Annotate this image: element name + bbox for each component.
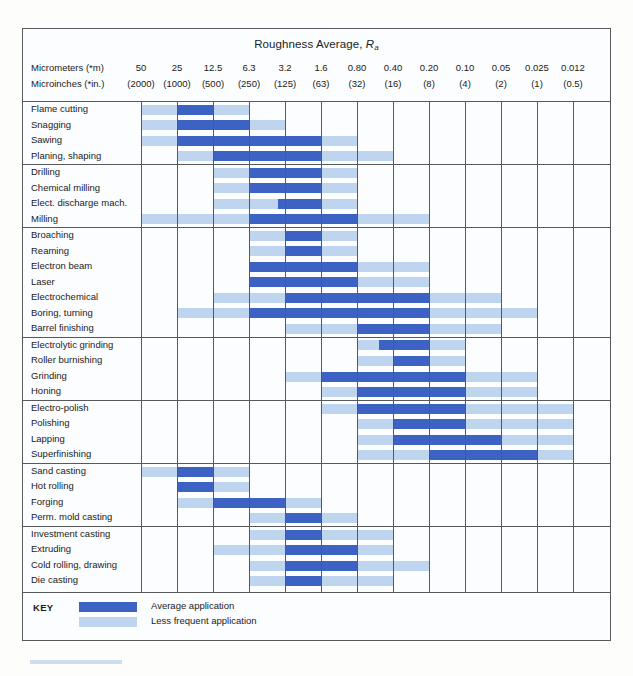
table-row[interactable]: Polishing — [23, 416, 610, 432]
bar-average — [249, 168, 321, 178]
process-group-1: Flame cuttingSnaggingSawingPlaning, shap… — [23, 102, 610, 164]
row-label: Forging — [31, 496, 63, 507]
bar-average — [357, 387, 465, 397]
table-row[interactable]: Chemical milling — [23, 181, 610, 197]
bar-average — [177, 120, 249, 130]
table-row[interactable]: Die casting — [23, 573, 610, 589]
row-label: Reaming — [31, 245, 69, 256]
process-group-7: Investment castingExtrudingCold rolling,… — [23, 526, 610, 589]
table-row[interactable]: Barrel finishing — [23, 321, 610, 337]
title-band: Roughness Average, Ra — [23, 29, 610, 59]
table-row[interactable]: Flame cutting — [23, 102, 610, 118]
row-label: Broaching — [31, 229, 74, 240]
table-row[interactable]: Sand casting — [23, 464, 610, 480]
row-label: Boring, turning — [31, 307, 93, 318]
row-label: Laser — [31, 276, 55, 287]
table-row[interactable]: Investment casting — [23, 527, 610, 543]
table-row[interactable]: Lapping — [23, 432, 610, 448]
table-row[interactable]: Elect. discharge mach. — [23, 196, 610, 212]
bar-average — [249, 214, 357, 224]
table-row[interactable]: Electro-polish — [23, 401, 610, 417]
table-row[interactable]: Sawing — [23, 133, 610, 149]
roughness-chart-frame: Roughness Average, Ra Micrometers (*m) M… — [22, 28, 611, 641]
table-row[interactable]: Reaming — [23, 244, 610, 260]
table-row[interactable]: Forging — [23, 495, 610, 511]
table-row[interactable]: Electrolytic grinding — [23, 338, 610, 354]
bar-average — [429, 450, 537, 460]
table-row[interactable]: Laser — [23, 275, 610, 291]
plot-area: Flame cuttingSnaggingSawingPlaning, shap… — [23, 102, 610, 592]
row-label: Snagging — [31, 119, 71, 130]
row-label: Superfinishing — [31, 448, 91, 459]
legend-label-average: Average application — [151, 600, 234, 611]
table-row[interactable]: Snagging — [23, 118, 610, 134]
row-label: Electro-polish — [31, 402, 89, 413]
bar-average — [285, 513, 321, 523]
row-label: Sand casting — [31, 465, 86, 476]
row-label: Honing — [31, 385, 61, 396]
table-row[interactable]: Honing — [23, 384, 610, 400]
table-row[interactable]: Extruding — [23, 542, 610, 558]
bar-average — [285, 293, 429, 303]
bar-average — [285, 246, 321, 256]
process-group-3: BroachingReamingElectron beamLaserElectr… — [23, 227, 610, 337]
bar-average — [249, 262, 357, 272]
bar-average — [393, 419, 465, 429]
row-label: Electrochemical — [31, 291, 98, 302]
row-label: Elect. discharge mach. — [31, 197, 127, 208]
row-label: Perm. mold casting — [31, 511, 112, 522]
table-row[interactable]: Milling — [23, 212, 610, 228]
table-row[interactable]: Perm. mold casting — [23, 510, 610, 526]
bar-average — [177, 467, 213, 477]
bar-average — [249, 183, 321, 193]
bar-average — [249, 277, 357, 287]
bar-average-secondary — [321, 308, 393, 318]
row-label: Planing, shaping — [31, 150, 101, 161]
bar-average — [393, 356, 429, 366]
table-row[interactable]: Planing, shaping — [23, 149, 610, 165]
bar-average — [285, 545, 357, 555]
bar-average — [285, 530, 321, 540]
bar-average — [285, 576, 321, 586]
table-row[interactable]: Electrochemical — [23, 290, 610, 306]
row-label: Drilling — [31, 166, 60, 177]
row-label: Extruding — [31, 543, 71, 554]
table-row[interactable]: Roller burnishing — [23, 353, 610, 369]
table-row[interactable]: Boring, turning — [23, 306, 610, 322]
legend-key: KEY Average application Less frequent ap… — [23, 592, 610, 641]
bar-average — [177, 105, 213, 115]
row-label: Chemical milling — [31, 182, 100, 193]
row-label: Electrolytic grinding — [31, 339, 113, 350]
bar-average — [177, 136, 321, 146]
row-label: Sawing — [31, 134, 62, 145]
bar-average — [393, 435, 501, 445]
bar-average — [379, 340, 429, 350]
table-row[interactable]: Cold rolling, drawing — [23, 558, 610, 574]
table-row[interactable]: Broaching — [23, 228, 610, 244]
legend-swatch-average — [79, 602, 137, 612]
legend-title: KEY — [33, 602, 53, 613]
legend-swatch-less-frequent — [79, 617, 137, 627]
caption-rule — [30, 660, 122, 664]
table-row[interactable]: Grinding — [23, 369, 610, 385]
bar-average — [177, 482, 213, 492]
chart-title-symbol: R — [366, 38, 374, 50]
bar-less-frequent — [249, 576, 393, 586]
table-row[interactable]: Drilling — [23, 165, 610, 181]
process-group-5: Electro-polishPolishingLappingSuperfinis… — [23, 400, 610, 463]
process-group-2: DrillingChemical millingElect. discharge… — [23, 164, 610, 227]
row-label: Investment casting — [31, 528, 110, 539]
table-row[interactable]: Hot rolling — [23, 479, 610, 495]
bar-average — [213, 151, 321, 161]
bar-less-frequent — [357, 419, 573, 429]
row-label: Barrel finishing — [31, 322, 94, 333]
process-group-6: Sand castingHot rollingForgingPerm. mold… — [23, 463, 610, 526]
axis-tick-micrometers-12: 0.012 — [551, 62, 595, 73]
row-label: Electron beam — [31, 260, 92, 271]
axis-tick-microinches-12: (0.5) — [551, 78, 595, 89]
bar-average — [357, 404, 465, 414]
row-label: Cold rolling, drawing — [31, 559, 117, 570]
table-row[interactable]: Electron beam — [23, 259, 610, 275]
table-row[interactable]: Superfinishing — [23, 447, 610, 463]
bar-average — [213, 498, 285, 508]
